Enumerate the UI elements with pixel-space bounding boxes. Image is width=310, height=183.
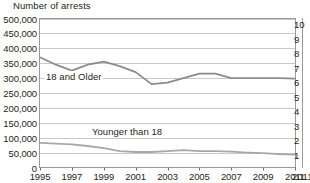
adjacent-chart-tick-label: 1 [294, 149, 299, 160]
adjacent-chart-tick-label: 3 [294, 120, 299, 131]
adjacent-chart-tick-label: 7 [294, 62, 299, 73]
x-axis-tick-label: 1997 [62, 171, 83, 182]
x-axis-tick-label: 2009 [253, 171, 274, 182]
x-axis-tick-label: 2005 [189, 171, 210, 182]
adjacent-chart-tick-label: 4 [294, 106, 299, 117]
plot-area [0, 0, 310, 183]
series-line [40, 143, 295, 155]
series-label-younger-than-18: Younger than 18 [91, 126, 163, 137]
gridlines [40, 20, 295, 154]
adjacent-chart-partial: 109876543212011 [292, 0, 310, 183]
adjacent-chart-tick-label: 2 [294, 135, 299, 146]
x-axis-tick-label: 2001 [125, 171, 146, 182]
x-axis-tick-label: 1995 [30, 171, 51, 182]
x-axis-tick-label: 2003 [157, 171, 178, 182]
x-axis-tick-label: 2011 [285, 171, 305, 182]
adjacent-chart-axis-line [302, 18, 310, 168]
x-axis-tick-label: 2007 [221, 171, 242, 182]
adjacent-chart-tick-label: 9 [294, 33, 299, 44]
arrests-line-chart: Number of arrests 500,000450,000400,0003… [0, 0, 310, 183]
x-axis-tick-labels: 199519971999200120032005200720092011 [0, 170, 310, 183]
adjacent-chart-tick-label: 6 [294, 77, 299, 88]
series-label-18-and-older: 18 and Older [45, 71, 103, 82]
adjacent-chart-tick-label: 10 [294, 19, 305, 30]
adjacent-chart-tick-label: 5 [294, 91, 299, 102]
x-axis-tick-label: 1999 [93, 171, 114, 182]
adjacent-chart-tick-label: 8 [294, 48, 299, 59]
